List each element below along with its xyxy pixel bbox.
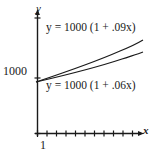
curve-label-lower: y = 1000 (1 + .06x) <box>46 80 136 92</box>
y-axis-tick-label-1000: 1000 <box>3 65 27 77</box>
x-axis-label: x <box>143 125 149 136</box>
graph-figure: y x 1000 1 y = 1000 (1 + .09x) y = 1000 … <box>0 0 155 158</box>
curve-lower-six-percent <box>36 52 143 82</box>
curve-upper-nine-percent <box>36 40 143 82</box>
y-axis-label: y <box>36 3 41 14</box>
x-axis-tick-label-1: 1 <box>40 139 46 151</box>
curve-label-upper: y = 1000 (1 + .09x) <box>46 22 136 34</box>
